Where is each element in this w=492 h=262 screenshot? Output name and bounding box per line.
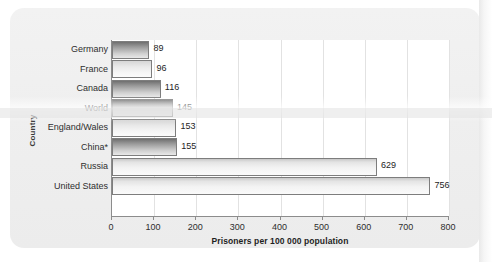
y-axis-category-labels: GermanyFranceCanadaWorldEngland/WalesChi… [40,40,110,216]
bar-value-label: 145 [177,102,192,112]
x-axis-tick-label: 400 [260,222,300,232]
x-axis-tick-label: 300 [217,222,257,232]
x-axis-tick [237,216,238,220]
bar [112,80,161,98]
bar [112,177,430,195]
bar [112,60,152,78]
x-axis-tick-label: 700 [386,222,426,232]
x-axis-tick [111,216,112,220]
gridline [449,40,450,216]
x-axis-tick [406,216,407,220]
bar-value-label: 116 [165,82,179,92]
category-label: World [85,99,108,119]
bar-row: 155 [112,138,449,158]
category-label: United States [54,177,108,197]
plot-inner: 8996116145153155629756 [112,40,449,216]
bar [112,41,149,59]
bar-value-label: 756 [434,180,449,190]
page-edge [479,0,492,262]
category-label: Germany [71,40,108,60]
category-label: England/Wales [48,118,108,138]
bar-value-label: 96 [156,63,166,73]
x-axis-tick-label: 500 [302,222,342,232]
bar-row: 153 [112,118,449,138]
bar-row: 89 [112,40,449,60]
x-axis-tick [280,216,281,220]
x-axis-tick [153,216,154,220]
bar-row: 96 [112,60,449,80]
bar-value-label: 629 [381,160,396,170]
x-axis-tick-label: 100 [133,222,173,232]
bar-row: 756 [112,177,449,197]
plot-area: 8996116145153155629756 [111,40,449,216]
bar [112,119,176,137]
bar-value-label: 155 [181,141,196,151]
category-label: China* [81,138,108,158]
bar-value-label: 89 [153,43,163,53]
category-label: France [80,60,108,80]
x-axis-tick [195,216,196,220]
x-axis-tick-label: 0 [91,222,131,232]
bar [112,99,173,117]
x-axis-tick [364,216,365,220]
x-axis-tick-label: 600 [344,222,384,232]
x-axis-tick [448,216,449,220]
bar-row: 116 [112,79,449,99]
x-axis-tick-label: 800 [428,222,468,232]
bar-row: 629 [112,157,449,177]
prisoners-per-capita-bar-chart: Country GermanyFranceCanadaWorldEngland/… [10,8,480,248]
x-axis-tick [322,216,323,220]
x-axis-tick-label: 200 [175,222,215,232]
x-axis-title: Prisoners per 100 000 population [111,236,449,246]
bar [112,138,177,156]
bar-row: 145 [112,99,449,119]
bar [112,158,377,176]
category-label: Canada [76,79,108,99]
category-label: Russia [80,157,108,177]
y-axis-title: Country [28,101,37,161]
bar-value-label: 153 [180,121,195,131]
